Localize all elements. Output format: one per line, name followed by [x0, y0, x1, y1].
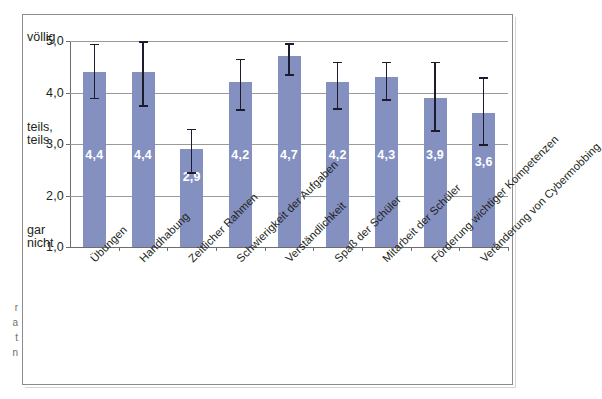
- error-bar-line: [483, 77, 485, 144]
- error-bar-cap-lower: [382, 99, 391, 101]
- error-bar-cap-lower: [139, 105, 148, 107]
- error-bar-cap-lower: [187, 172, 196, 174]
- plot-area: 4,44,42,94,24,74,24,33,93,6: [70, 41, 508, 247]
- y-axis-tick-label: 4,0: [24, 86, 64, 100]
- bar-value-label: 4,2: [229, 148, 252, 162]
- error-bar-line: [386, 62, 388, 100]
- error-bar-cap-upper: [285, 43, 294, 45]
- y-axis-tick-mark: [66, 144, 70, 145]
- error-bar-cap-lower: [333, 108, 342, 110]
- gridline: [70, 247, 508, 248]
- error-bar-line: [337, 62, 339, 108]
- error-bar-cap-upper: [187, 129, 196, 131]
- bar-value-label: 4,4: [132, 148, 155, 162]
- error-bar-cap-lower: [479, 144, 488, 146]
- gridline: [70, 41, 508, 42]
- bar-value-label: 3,6: [472, 155, 495, 169]
- error-bar-cap-upper: [139, 41, 148, 43]
- bar-value-label: 4,3: [375, 148, 398, 162]
- error-bar-cap-upper: [382, 62, 391, 64]
- bar-value-label: 4,7: [278, 148, 301, 162]
- error-bar-line: [142, 41, 144, 105]
- error-bar-cap-upper: [431, 62, 440, 64]
- error-bar-cap-upper: [333, 62, 342, 64]
- error-bar-line: [434, 62, 436, 130]
- error-bar-cap-lower: [431, 130, 440, 132]
- y-axis-tick-mark: [66, 93, 70, 94]
- error-bar-cap-upper: [236, 59, 245, 61]
- y-axis-tick-label: 3,0: [24, 137, 64, 151]
- error-bar-line: [288, 43, 290, 74]
- bar-value-label: 4,4: [83, 148, 106, 162]
- bar: [375, 77, 398, 247]
- y-axis-tick-label: 5,0: [24, 34, 64, 48]
- y-axis-tick-labels: 1,02,03,04,05,0: [0, 0, 70, 399]
- bar-value-label: 3,9: [424, 148, 447, 162]
- y-axis-tick-label: 2,0: [24, 189, 64, 203]
- y-axis-tick-mark: [66, 41, 70, 42]
- error-bar-line: [240, 59, 242, 109]
- error-bar-cap-lower: [90, 98, 99, 100]
- y-axis-tick-mark: [66, 247, 70, 248]
- error-bar-cap-upper: [90, 44, 99, 46]
- error-bar-cap-upper: [479, 77, 488, 79]
- error-bar-cap-lower: [236, 109, 245, 111]
- y-axis-tick-mark: [66, 196, 70, 197]
- y-axis-tick-label: 1,0: [24, 240, 64, 254]
- error-bar-line: [94, 44, 96, 98]
- error-bar-cap-lower: [285, 74, 294, 76]
- error-bar-line: [191, 129, 193, 173]
- bar-value-label: 4,2: [326, 148, 349, 162]
